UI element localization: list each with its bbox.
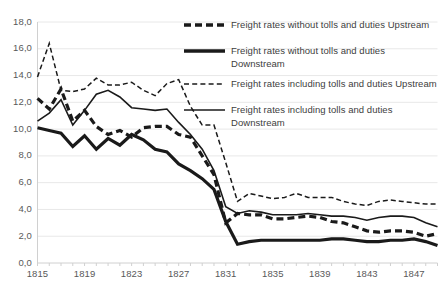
x-tick-label: 1835 <box>253 268 293 279</box>
x-tick-label: 1823 <box>112 268 152 279</box>
y-tick-label: 2,0 <box>2 230 32 241</box>
legend-key-thin-solid-icon <box>183 103 226 119</box>
y-tick-label: 12,0 <box>2 96 32 107</box>
x-tick-label: 1827 <box>159 268 199 279</box>
x-tick-label: 1819 <box>65 268 105 279</box>
x-tick-label: 1831 <box>206 268 246 279</box>
legend-label: Freight rates including tolls and duties… <box>231 77 437 91</box>
legend-key-thick-dashed-icon <box>183 18 226 34</box>
y-tick-label: 10,0 <box>2 123 32 134</box>
y-tick-label: 14,0 <box>2 69 32 80</box>
x-tick-label: 1815 <box>18 268 58 279</box>
y-tick-label: 18,0 <box>2 16 32 27</box>
legend-item[interactable]: Freight rates without tolls and duties U… <box>183 18 441 37</box>
freight-rates-line-chart: 0,02,04,06,08,010,012,014,016,018,0 1815… <box>0 0 445 290</box>
legend-key-thick-solid-icon <box>183 44 226 60</box>
y-tick-label: 0,0 <box>2 257 32 268</box>
legend-item[interactable]: Freight rates including tolls and duties… <box>183 77 441 96</box>
x-tick-label: 1843 <box>347 268 387 279</box>
y-tick-label: 8,0 <box>2 149 32 160</box>
legend-label: Freight rates including tolls and duties… <box>231 103 441 129</box>
legend-item[interactable]: Freight rates without tolls and duties D… <box>183 44 441 70</box>
legend-item[interactable]: Freight rates including tolls and duties… <box>183 103 441 129</box>
y-tick-label: 16,0 <box>2 42 32 53</box>
y-tick-label: 4,0 <box>2 203 32 214</box>
x-tick-label: 1847 <box>394 268 434 279</box>
series-line-1 <box>38 128 438 246</box>
y-tick-label: 6,0 <box>2 176 32 187</box>
legend-label: Freight rates without tolls and duties U… <box>231 18 429 32</box>
legend-key-thin-dashed-icon <box>183 77 226 93</box>
x-tick-label: 1839 <box>300 268 340 279</box>
chart-legend: Freight rates without tolls and duties U… <box>183 18 441 136</box>
legend-label: Freight rates without tolls and duties D… <box>231 44 441 70</box>
